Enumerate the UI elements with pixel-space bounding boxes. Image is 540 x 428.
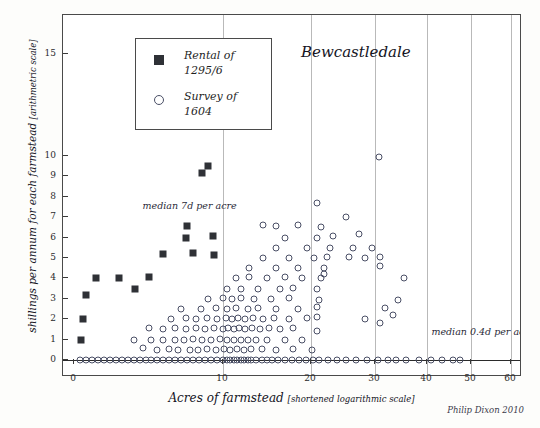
data-point — [299, 336, 306, 343]
data-point — [376, 154, 383, 161]
data-point — [356, 230, 363, 237]
data-point — [249, 315, 256, 322]
data-point — [160, 326, 167, 333]
data-point — [395, 296, 402, 303]
data-point — [264, 275, 271, 282]
data-point — [160, 250, 167, 257]
x-tick — [310, 359, 311, 364]
data-point — [178, 306, 185, 313]
data-point — [268, 295, 275, 302]
data-point — [259, 255, 266, 262]
data-point — [309, 346, 316, 353]
data-point — [234, 315, 241, 322]
data-point — [197, 306, 204, 313]
data-point — [346, 253, 353, 260]
data-point — [223, 336, 230, 343]
y-tick — [63, 155, 68, 156]
data-point — [172, 325, 179, 332]
data-point — [377, 263, 384, 270]
data-point — [390, 312, 397, 319]
y-tick-label: 15 — [40, 48, 56, 58]
y-tick-label: 5 — [40, 252, 56, 262]
y-tick-label: 7 — [40, 211, 56, 221]
data-point — [212, 346, 219, 353]
data-point — [211, 251, 218, 258]
data-point — [234, 345, 241, 352]
data-point — [166, 345, 173, 352]
data-point — [193, 325, 200, 332]
data-point — [255, 304, 262, 311]
x-tick — [73, 359, 74, 364]
y-tick — [63, 318, 68, 319]
y-tick-label: 6 — [40, 232, 56, 242]
data-point — [416, 357, 423, 364]
data-point — [286, 255, 293, 262]
data-point — [214, 316, 221, 323]
data-point — [145, 325, 152, 332]
data-point — [79, 316, 86, 323]
legend-label-rental: Rental of 1295/6 — [184, 48, 235, 78]
data-point — [349, 244, 356, 251]
data-point — [320, 265, 327, 272]
y-tick — [63, 277, 68, 278]
data-point — [211, 325, 218, 332]
data-point — [457, 357, 464, 364]
filled-square-icon — [154, 55, 164, 65]
data-point — [314, 234, 321, 241]
data-point — [190, 249, 197, 256]
data-point — [209, 232, 216, 239]
data-point — [244, 306, 251, 313]
gridline-x-30 — [375, 15, 376, 375]
data-point — [132, 285, 139, 292]
data-point — [314, 199, 321, 206]
y-tick — [63, 359, 68, 360]
data-point — [264, 336, 271, 343]
data-point — [343, 357, 350, 364]
data-point — [324, 357, 331, 364]
data-point — [205, 295, 212, 302]
y-axis-label: shillings per annum for each farmstead [… — [26, 36, 38, 336]
data-point — [184, 223, 191, 230]
y-tick — [63, 196, 68, 197]
data-point — [343, 214, 350, 221]
data-point — [314, 314, 321, 321]
y-tick-label: 2 — [40, 313, 56, 323]
data-point — [290, 345, 297, 352]
y-tick-label: 10 — [40, 150, 56, 160]
data-point — [317, 224, 324, 231]
data-point — [237, 285, 244, 292]
data-point — [160, 336, 167, 343]
data-point — [330, 232, 337, 239]
data-point — [362, 255, 369, 262]
data-point — [428, 357, 435, 364]
data-point — [199, 336, 206, 343]
chart-legend: Rental of 1295/6 Survey of 1604 — [135, 38, 272, 130]
x-tick — [222, 359, 223, 364]
data-point — [281, 336, 288, 343]
data-point — [403, 357, 410, 364]
data-point — [286, 294, 293, 301]
gridline-x-20 — [311, 15, 312, 375]
data-point — [193, 316, 200, 323]
data-point — [249, 325, 256, 332]
data-point — [314, 285, 321, 292]
data-point — [230, 336, 237, 343]
data-point — [382, 304, 389, 311]
x-tick — [510, 359, 511, 364]
data-point — [392, 357, 399, 364]
data-point — [187, 346, 194, 353]
data-point — [115, 275, 122, 282]
y-tick-label: 9 — [40, 170, 56, 180]
data-point — [303, 244, 310, 251]
legend-entry-survey: Survey of 1604 — [136, 90, 271, 126]
data-point — [182, 234, 189, 241]
data-point — [311, 255, 318, 262]
y-tick — [63, 175, 68, 176]
x-tick — [374, 359, 375, 364]
x-tick-label: 40 — [420, 373, 431, 383]
data-point — [78, 336, 85, 343]
data-point — [272, 265, 279, 272]
data-point — [199, 170, 206, 177]
data-point — [233, 304, 240, 311]
data-point — [256, 326, 263, 333]
